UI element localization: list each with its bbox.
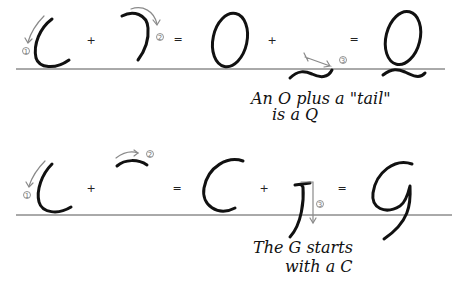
c-stroke-2 xyxy=(122,13,148,60)
svg-text:+: + xyxy=(86,182,95,195)
equals-operator: = xyxy=(173,33,182,46)
svg-text:2: 2 xyxy=(158,34,162,42)
top-arc-stroke xyxy=(117,161,147,166)
tail-stroke xyxy=(290,70,332,78)
c-stroke-1 xyxy=(35,19,69,67)
caption-g-line2: with a C xyxy=(285,258,353,275)
svg-text:=: = xyxy=(337,182,346,195)
letter-c xyxy=(204,160,243,211)
svg-text:1: 1 xyxy=(25,192,29,200)
j-stroke xyxy=(290,183,310,237)
caption-q-line2: is a Q xyxy=(272,106,318,123)
svg-text:+: + xyxy=(267,34,276,47)
svg-text:3: 3 xyxy=(341,57,345,65)
svg-text:3: 3 xyxy=(318,201,322,209)
c-stroke-1-row2 xyxy=(38,164,71,212)
diagram-canvas: 1 + 2 = + 3 = 1 + 2 = + 3 = xyxy=(0,0,465,291)
svg-text:+: + xyxy=(259,182,268,195)
svg-text:=: = xyxy=(172,182,181,195)
direction-arrow-3 xyxy=(304,53,330,67)
svg-text:=: = xyxy=(349,33,358,46)
letter-q xyxy=(380,8,426,69)
plus-operator: + xyxy=(86,34,95,47)
letter-g xyxy=(373,163,412,239)
svg-text:1: 1 xyxy=(24,48,28,56)
letter-o xyxy=(208,10,252,70)
svg-text:2: 2 xyxy=(148,151,152,159)
caption-g-line1: The G starts xyxy=(253,239,353,256)
